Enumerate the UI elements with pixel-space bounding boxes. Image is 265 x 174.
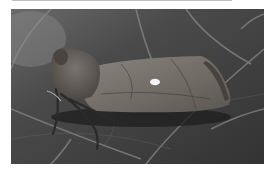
wing-white-spot	[150, 79, 160, 85]
moth-eye	[54, 49, 68, 65]
moth-on-leaf-illustration	[11, 9, 264, 164]
top-border-line	[12, 0, 232, 1]
moth-photo: Close-up photograph of a brown moth with…	[11, 9, 264, 164]
